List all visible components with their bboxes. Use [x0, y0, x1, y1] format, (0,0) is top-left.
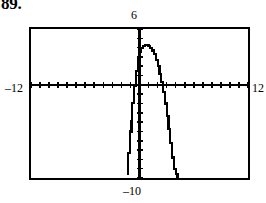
exercise-number: 89.	[1, 0, 21, 12]
exercise-figure: 89. 6 –12 12 –10	[0, 0, 266, 203]
y-max-label: 6	[131, 9, 137, 21]
x-min-label: –12	[5, 82, 23, 94]
x-max-label: 12	[252, 82, 264, 94]
graph-plot	[31, 29, 248, 178]
y-min-label: –10	[123, 185, 141, 197]
calculator-viewing-window	[29, 27, 250, 180]
curve-layer	[128, 45, 180, 178]
parabola-curve	[128, 45, 180, 178]
